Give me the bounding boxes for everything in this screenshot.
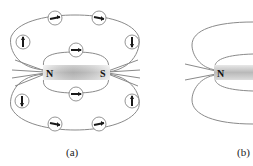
caption-b: (b): [237, 146, 250, 158]
bar-magnet-b: N: [214, 65, 253, 80]
compass-icon: [125, 94, 139, 108]
figure-b: N: [185, 22, 253, 124]
compass-icon: [48, 11, 62, 25]
north-pole-label: N: [217, 68, 225, 79]
compass-icon: [69, 87, 83, 101]
bar-magnet-a: N S: [43, 65, 110, 80]
figure-a: N S: [11, 11, 140, 131]
compass-icon: [92, 11, 106, 25]
compass-icon: [15, 94, 29, 108]
compass-icon: [48, 117, 62, 131]
caption-a: (a): [66, 146, 78, 158]
compass-icon: [125, 35, 139, 49]
compass-icon: [92, 117, 106, 131]
magnetic-field-diagram: N S: [0, 0, 253, 166]
compass-icon: [16, 35, 30, 49]
south-pole-label: S: [100, 68, 106, 79]
north-pole-label: N: [46, 68, 54, 79]
compass-icon: [69, 43, 83, 57]
